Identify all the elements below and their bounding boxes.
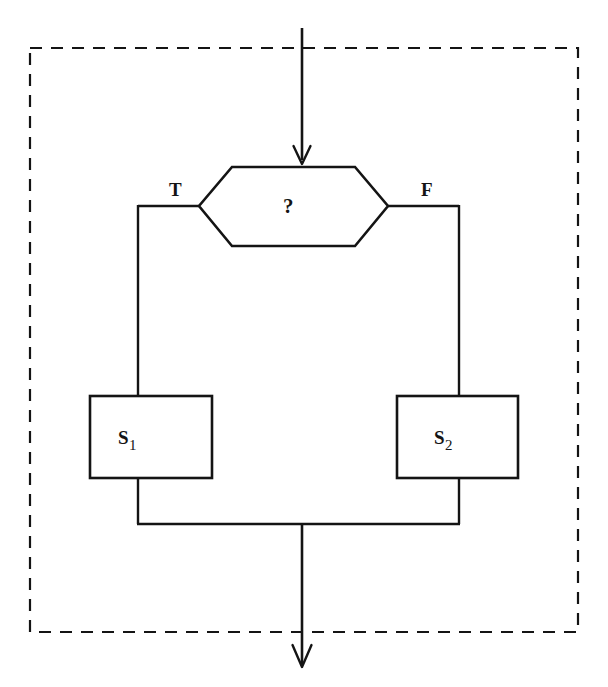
merge-path: [137, 477, 460, 524]
exit-arrow: [293, 523, 312, 667]
decision-hexagon: [199, 167, 388, 246]
structure-boundary: [30, 48, 578, 632]
statement-box-s2: [397, 396, 518, 478]
false-branch-path: [388, 205, 459, 397]
flowchart-graphic: [0, 0, 608, 687]
true-branch-path: [138, 205, 199, 397]
flowchart-canvas: T F ? S1 S2: [0, 0, 608, 687]
statement-box-s1: [90, 396, 212, 478]
